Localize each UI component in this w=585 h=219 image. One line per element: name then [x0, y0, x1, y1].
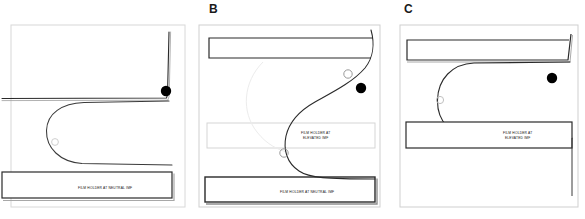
panel-c-graphic — [390, 0, 585, 219]
reference-dot — [356, 83, 366, 93]
panel-a: FILM HOLDER AT NEUTRAL IMF — [0, 0, 195, 219]
film-holder-bar-bottom — [205, 177, 375, 202]
panel-a-graphic — [0, 0, 195, 219]
reference-dot — [161, 86, 171, 96]
figure-three-panel: FILM HOLDER AT NEUTRAL IMF B FILM HO — [0, 0, 585, 219]
panel-c: C FILM HOLDER AT ELEVATED IMF — [390, 0, 585, 219]
panel-b: B FILM HOLDER AT ELEVATED IMF FILM HOLDE… — [195, 0, 390, 219]
film-holder-bar-bottom — [2, 172, 172, 198]
film-holder-bar-middle — [406, 122, 572, 148]
panel-frame — [400, 25, 578, 207]
film-holder-bar-middle — [207, 123, 375, 148]
panel-c-letter: C — [404, 3, 413, 15]
panel-b-letter: B — [209, 3, 218, 15]
panel-b-graphic — [195, 0, 390, 219]
reference-dot — [547, 73, 557, 83]
